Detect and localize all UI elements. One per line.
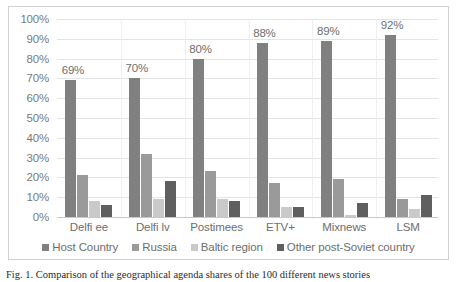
- legend-item[interactable]: Other post-Soviet country: [277, 241, 415, 253]
- gridline: [57, 217, 438, 218]
- x-axis-tick-label: Postimees: [190, 221, 243, 233]
- bar-data-label: 70%: [126, 62, 148, 74]
- y-axis-tick-label: 50%: [27, 112, 49, 124]
- legend-item[interactable]: Host Country: [42, 241, 118, 253]
- bar: [193, 59, 204, 217]
- bar-data-label: 80%: [189, 43, 211, 55]
- legend-swatch-icon: [42, 244, 49, 251]
- chart-figure: 100%90%80%70%60%50%40%30%20%10%0% 69%70%…: [8, 6, 449, 260]
- bar: [77, 175, 88, 217]
- bar: [229, 201, 240, 217]
- bar: [421, 195, 432, 217]
- y-axis-tick-label: 60%: [27, 92, 49, 104]
- legend-item[interactable]: Russia: [132, 241, 177, 253]
- y-axis-tick-label: 30%: [27, 152, 49, 164]
- y-axis-tick-label: 20%: [27, 171, 49, 183]
- y-axis-tick-label: 100%: [20, 13, 49, 25]
- x-axis-tick-label: LSM: [396, 221, 419, 233]
- bar: [65, 80, 76, 217]
- y-axis-tick-label: 40%: [27, 132, 49, 144]
- x-axis-tick-label: ETV+: [266, 221, 295, 233]
- chart-legend: Host CountryRussiaBaltic regionOther pos…: [9, 241, 448, 253]
- bar-data-label: 89%: [317, 25, 339, 37]
- bar: [205, 171, 216, 217]
- bar: [281, 207, 292, 217]
- y-axis-tick-label: 70%: [27, 72, 49, 84]
- bar-data-label: 88%: [253, 27, 275, 39]
- legend-swatch-icon: [132, 244, 139, 251]
- bar: [141, 154, 152, 217]
- x-axis-tick-label: Delfi ee: [70, 221, 108, 233]
- legend-item[interactable]: Baltic region: [191, 241, 263, 253]
- x-axis-tick-label: Delfi lv: [136, 221, 170, 233]
- y-axis-tick-label: 10%: [27, 191, 49, 203]
- bar: [217, 199, 228, 217]
- bar: [293, 207, 304, 217]
- bar: [153, 199, 164, 217]
- bar: [345, 215, 356, 217]
- bar: [165, 181, 176, 217]
- bars-layer: 69%70%80%88%89%92%: [57, 19, 438, 217]
- y-axis: 100%90%80%70%60%50%40%30%20%10%0%: [9, 19, 53, 217]
- y-axis-tick-label: 0%: [33, 211, 49, 223]
- bar: [101, 205, 112, 217]
- bar-data-label: 92%: [381, 19, 403, 31]
- bar: [385, 35, 396, 217]
- bar: [257, 43, 268, 217]
- y-axis-tick-label: 90%: [27, 33, 49, 45]
- bar: [357, 203, 368, 217]
- bar: [333, 179, 344, 217]
- bar: [321, 41, 332, 217]
- y-axis-tick-label: 80%: [27, 53, 49, 65]
- legend-label: Other post-Soviet country: [287, 241, 415, 253]
- plot-area: 69%70%80%88%89%92%: [57, 19, 438, 217]
- legend-label: Russia: [142, 241, 177, 253]
- x-axis-tick-label: Mixnews: [322, 221, 366, 233]
- bar: [89, 201, 100, 217]
- bar: [269, 183, 280, 217]
- x-axis: Delfi eeDelfi lvPostimeesETV+MixnewsLSM: [57, 221, 438, 239]
- legend-swatch-icon: [191, 244, 198, 251]
- bar: [397, 199, 408, 217]
- bar-data-label: 69%: [62, 64, 84, 76]
- legend-label: Baltic region: [201, 241, 263, 253]
- bar: [129, 78, 140, 217]
- figure-caption: Fig. 1. Comparison of the geographical a…: [6, 268, 454, 282]
- legend-swatch-icon: [277, 244, 284, 251]
- bar: [409, 209, 420, 217]
- legend-label: Host Country: [52, 241, 118, 253]
